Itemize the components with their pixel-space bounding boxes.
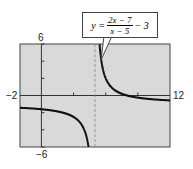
y-max-label: 6 xyxy=(38,32,44,43)
fraction: 2x − 7 x − 5 xyxy=(107,15,133,36)
y-min-label: −6 xyxy=(36,149,47,160)
equation-lhs: y = xyxy=(91,20,105,31)
equation-callout: y = 2x − 7 x − 5 − 3 xyxy=(82,12,158,38)
denominator: x − 5 xyxy=(110,26,129,36)
graph-figure: y = 2x − 7 x − 5 − 3 6 −6 −2 12 xyxy=(0,0,193,169)
x-max-label: 12 xyxy=(173,90,184,101)
x-min-label: −2 xyxy=(6,90,17,101)
equation-tail: − 3 xyxy=(135,20,149,31)
numerator: 2x − 7 xyxy=(107,15,133,26)
